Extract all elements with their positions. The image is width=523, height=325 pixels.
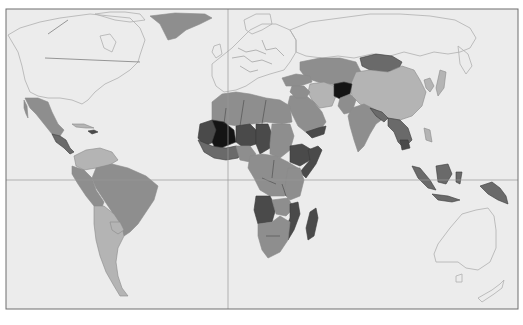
map-canvas	[0, 0, 523, 325]
region-niger	[236, 124, 256, 148]
region-cambodia	[400, 140, 410, 150]
world-map	[0, 0, 523, 325]
